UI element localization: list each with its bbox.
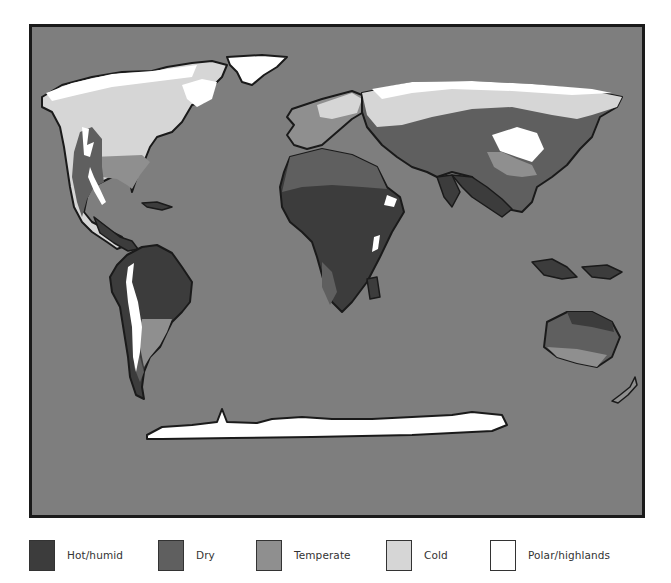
swatch-temperate	[256, 540, 282, 571]
indonesia	[532, 259, 577, 279]
antarctica	[147, 409, 507, 439]
legend-label: Temperate	[294, 549, 351, 561]
legend-label: Cold	[424, 549, 448, 561]
legend-item-temperate: Temperate	[256, 537, 351, 573]
legend-label: Polar/highlands	[528, 549, 610, 561]
swatch-polar-highlands	[490, 540, 516, 571]
legend-item-hot-humid: Hot/humid	[29, 537, 123, 573]
world-climate-map	[29, 24, 645, 518]
legend-item-cold: Cold	[386, 537, 448, 573]
swatch-cold	[386, 540, 412, 571]
swatch-hot-humid	[29, 540, 55, 571]
legend-item-dry: Dry	[158, 537, 215, 573]
map-canvas	[32, 27, 642, 515]
swatch-dry	[158, 540, 184, 571]
legend: Hot/humid Dry Temperate Cold Polar/highl…	[0, 537, 671, 583]
new-zealand	[612, 377, 637, 403]
legend-item-polar-highlands: Polar/highlands	[490, 537, 610, 573]
greenland	[227, 55, 287, 85]
legend-label: Dry	[196, 549, 215, 561]
legend-label: Hot/humid	[67, 549, 123, 561]
